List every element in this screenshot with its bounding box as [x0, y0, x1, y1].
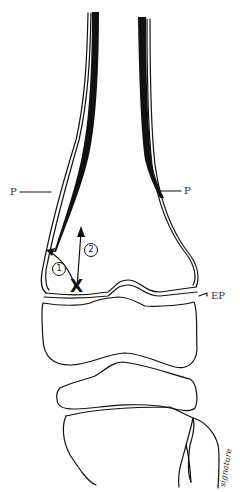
diagram-drawing [0, 0, 240, 492]
metaphysis-bottom [46, 280, 196, 295]
arrow-2-head [77, 226, 85, 237]
label-periosteum-right: P [184, 186, 191, 196]
tibia-left-edge [63, 416, 96, 485]
fibula-outline [193, 418, 219, 488]
label-epiphyseal-plate: EP [211, 291, 225, 301]
epiphysis-outline [42, 297, 197, 368]
leader-line-ep [199, 293, 207, 296]
tibia-outline [66, 407, 194, 482]
marker-path-2: 2 [84, 243, 98, 257]
label-periosteum-left: P [10, 187, 17, 197]
marker-path-1: 1 [52, 262, 66, 276]
knee-anatomy-diagram: P P EP 1 2 X signature [0, 0, 240, 492]
left-cortex-thick [54, 12, 99, 252]
growth-plate-line [44, 285, 197, 298]
fracture-x-mark: X [70, 278, 83, 295]
right-periosteum [150, 19, 198, 287]
middle-bone-outline [57, 362, 197, 411]
